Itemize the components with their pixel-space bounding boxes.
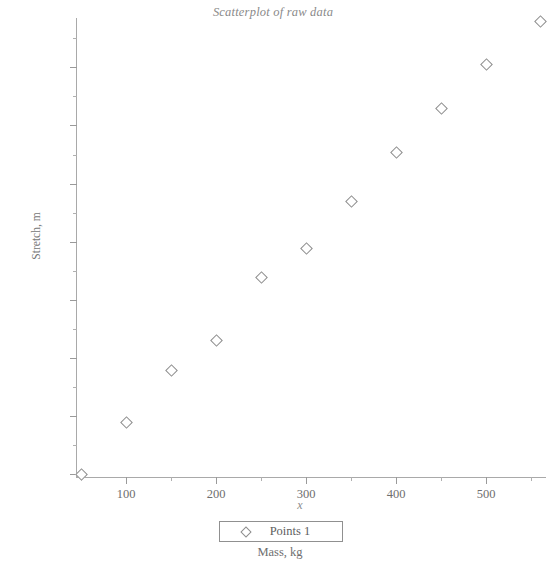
- y-axis-line: [76, 18, 77, 478]
- data-point-marker: [210, 335, 223, 348]
- x-tick-minor: [261, 477, 262, 481]
- x-tick-minor: [351, 477, 352, 481]
- data-point-marker: [345, 195, 358, 208]
- chart-title: Scatterplot of raw data: [0, 5, 546, 20]
- data-point-marker: [165, 364, 178, 377]
- x-axis-line: [76, 477, 546, 478]
- data-point-marker: [75, 468, 88, 481]
- data-point-marker: [435, 102, 448, 115]
- y-tick-major: [70, 416, 77, 417]
- data-point-marker: [300, 242, 313, 255]
- y-tick-minor: [73, 387, 77, 388]
- y-tick-major: [70, 242, 77, 243]
- legend-box: Points 1: [219, 521, 343, 542]
- x-tick-major: [216, 477, 217, 484]
- y-tick-minor: [73, 38, 77, 39]
- data-point-marker: [255, 271, 268, 284]
- legend-entry-label: Points 1: [250, 524, 342, 539]
- x-tick-major: [486, 477, 487, 484]
- y-tick-minor: [73, 329, 77, 330]
- y-tick-minor: [73, 96, 77, 97]
- y-axis-title: Stretch, m: [30, 186, 42, 286]
- x-axis-variable-label: x: [0, 498, 551, 513]
- x-tick-major: [306, 477, 307, 484]
- y-tick-major: [70, 125, 77, 126]
- x-axis-title: Mass, kg: [0, 545, 551, 560]
- y-tick-major: [70, 184, 77, 185]
- y-tick-major: [70, 300, 77, 301]
- legend-entry: Points 1: [220, 522, 342, 541]
- data-point-marker: [480, 59, 493, 72]
- y-tick-major: [70, 67, 77, 68]
- data-point-marker: [120, 416, 133, 429]
- x-tick-minor: [531, 477, 532, 481]
- y-tick-minor: [73, 155, 77, 156]
- x-tick-major: [396, 477, 397, 484]
- y-tick-minor: [73, 271, 77, 272]
- y-tick-minor: [73, 213, 77, 214]
- x-tick-major: [126, 477, 127, 484]
- x-tick-minor: [171, 477, 172, 481]
- x-tick-minor: [441, 477, 442, 481]
- data-point-marker: [390, 146, 403, 159]
- y-tick-minor: [73, 445, 77, 446]
- y-tick-major: [70, 358, 77, 359]
